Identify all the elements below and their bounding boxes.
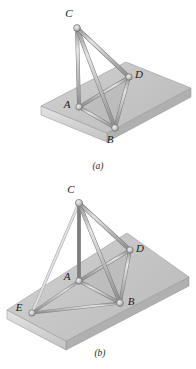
joint-c-b bbox=[75, 199, 82, 206]
caption-panel-b: (b) bbox=[94, 348, 105, 359]
label-node-c: C bbox=[65, 7, 73, 19]
label-node-a-b: A bbox=[63, 270, 71, 282]
label-node-b: B bbox=[107, 133, 114, 145]
figure-root: C A B D (a) bbox=[0, 0, 196, 369]
panel-b: C A B D E (b) bbox=[7, 183, 189, 359]
label-node-b-b: B bbox=[128, 295, 135, 307]
joint-b bbox=[112, 125, 119, 132]
label-node-d: D bbox=[134, 68, 143, 80]
joint-a-b bbox=[76, 278, 82, 284]
joint-b-b bbox=[117, 300, 124, 307]
label-node-e-b: E bbox=[15, 301, 23, 313]
panel-a: C A B D (a) bbox=[41, 7, 191, 172]
joint-d-b bbox=[127, 247, 133, 253]
joint-a bbox=[76, 104, 82, 110]
label-node-a: A bbox=[63, 98, 71, 110]
joint-e bbox=[29, 310, 35, 316]
label-node-d-b: D bbox=[135, 242, 144, 254]
truss-figure-svg: C A B D (a) bbox=[0, 0, 196, 369]
label-node-c-b: C bbox=[67, 183, 75, 195]
caption-panel-a: (a) bbox=[92, 161, 103, 172]
joint-d bbox=[126, 74, 132, 80]
member-c-a bbox=[77, 28, 79, 107]
joint-c bbox=[74, 25, 81, 32]
